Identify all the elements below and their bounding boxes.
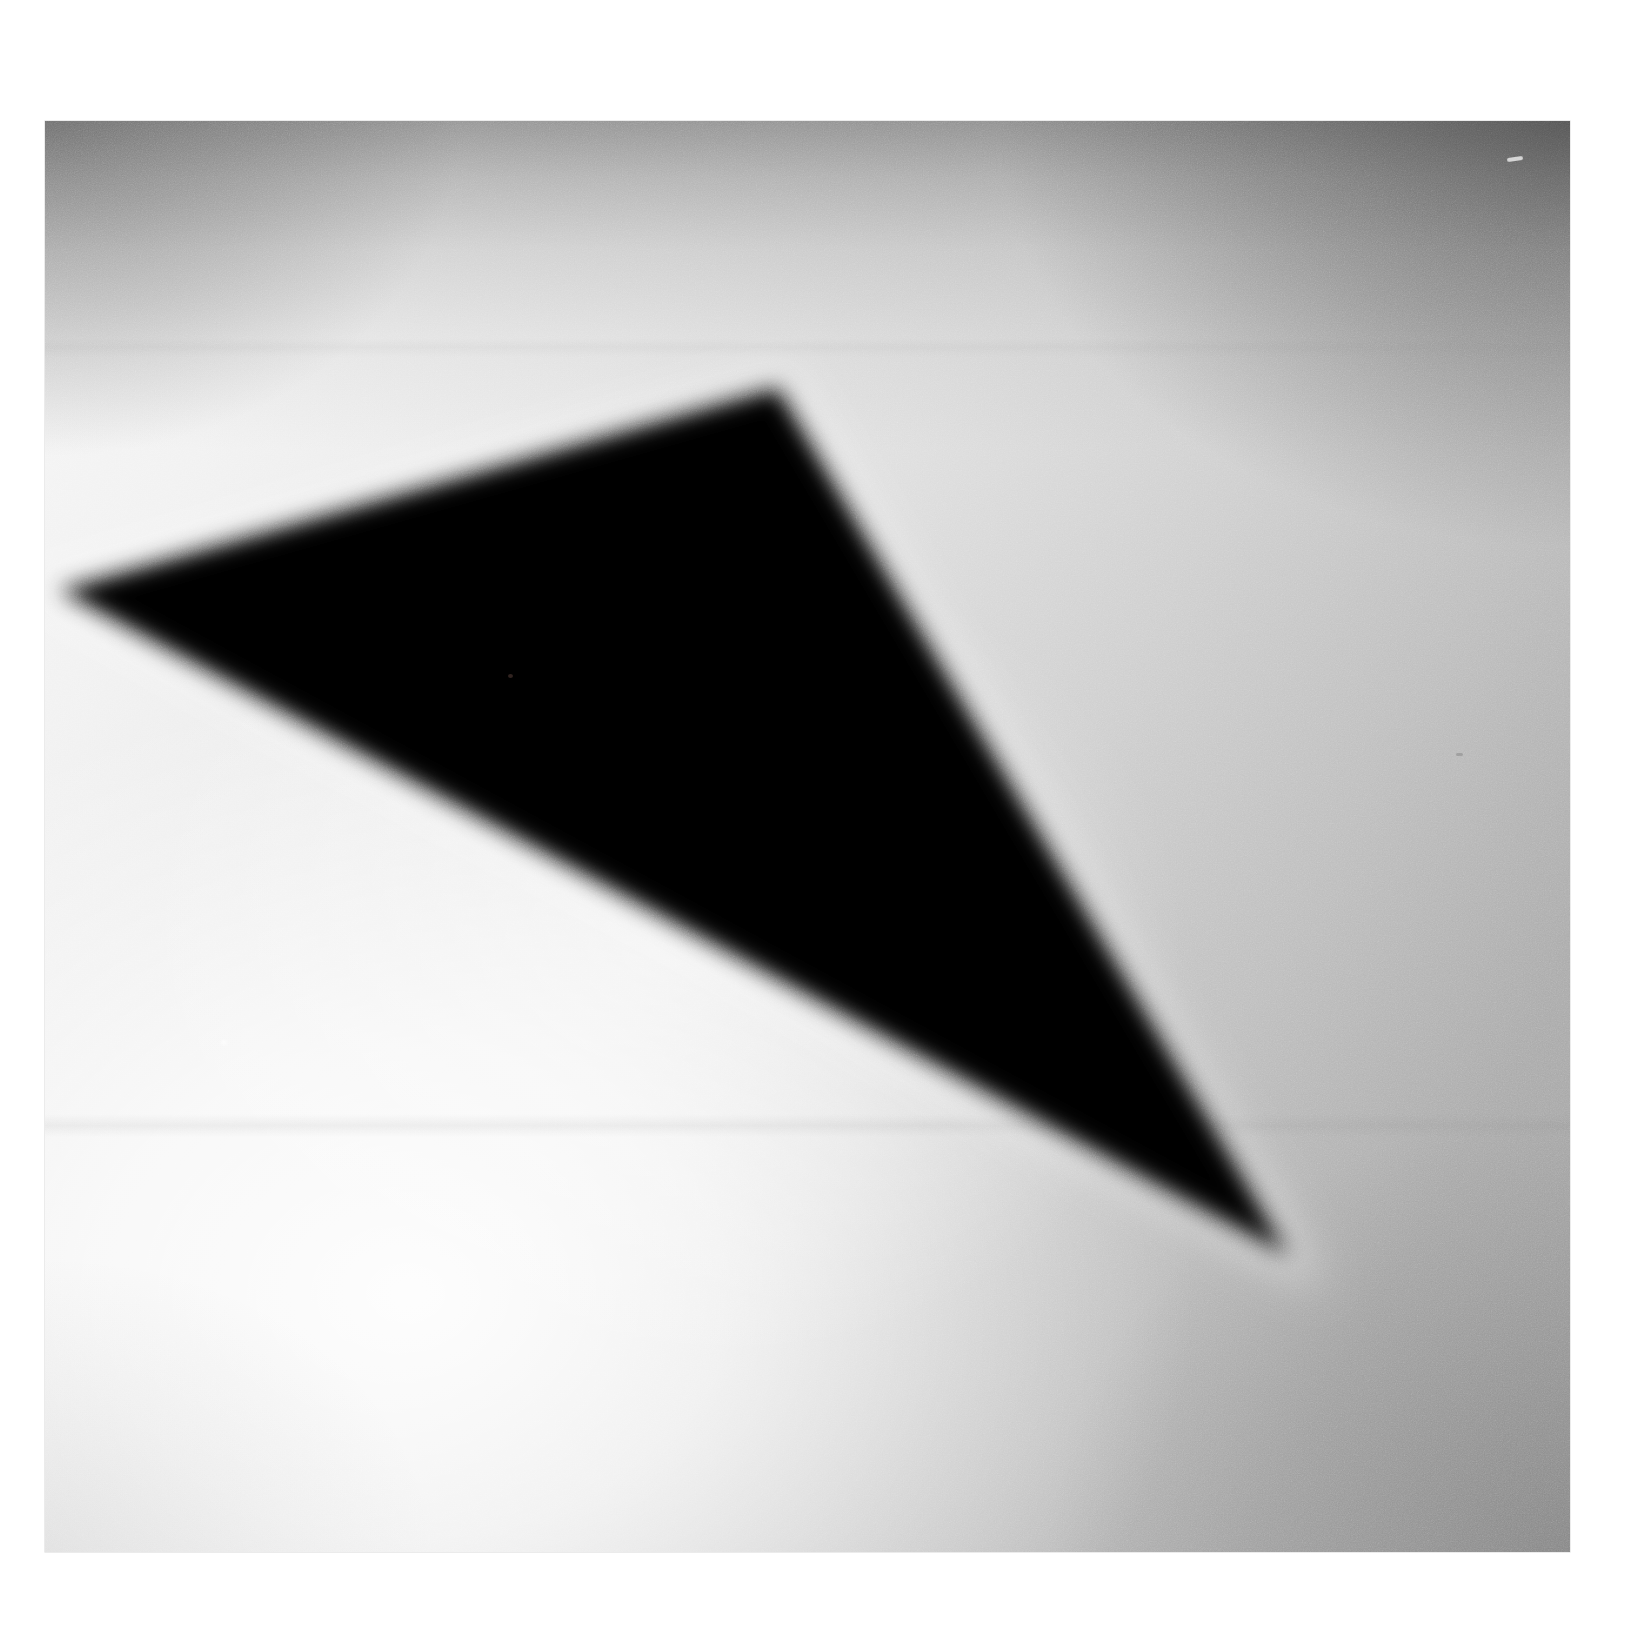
print-crease-line	[45, 121, 1570, 1552]
speck-interior-dot	[508, 674, 513, 678]
artwork-canvas	[0, 0, 1652, 1627]
print-top-shade-band	[45, 121, 1570, 1552]
triangle-halation	[45, 121, 1570, 1552]
print-base-gradient	[45, 121, 1570, 1552]
black-triangle	[45, 121, 1570, 1552]
speck-lower-left-dot	[221, 1040, 227, 1045]
speck-top-right-scratch	[1507, 156, 1523, 162]
photographic-print	[45, 121, 1570, 1552]
print-mid-left-highlight	[45, 121, 1570, 1552]
print-lower-left-highlight	[45, 121, 1570, 1552]
speck-right-mid-mark	[1456, 753, 1463, 756]
print-corner-vignette	[45, 121, 1570, 1552]
print-grain-texture	[45, 121, 1570, 1552]
